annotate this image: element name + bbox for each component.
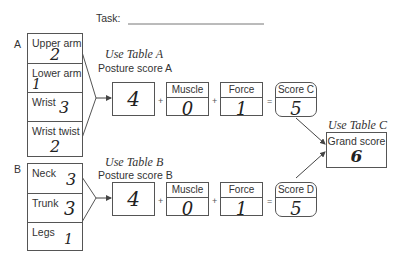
item-value: 3 — [66, 170, 76, 189]
item-legs: Legs 1 — [28, 222, 82, 252]
muscle-b-box: Muscle 0 — [166, 182, 209, 216]
item-value: 1 — [64, 231, 73, 247]
force-b-value: 1 — [221, 198, 262, 220]
funnel-b — [82, 177, 96, 222]
item-wrist-twist: Wrist twist 2 — [28, 121, 82, 158]
score-d-value: 5 — [276, 198, 316, 220]
muscle-a-box: Muscle 0 — [166, 82, 209, 116]
arrow-d-grand — [296, 152, 325, 178]
item-value: 3 — [64, 198, 75, 219]
task-input[interactable] — [128, 10, 264, 26]
plus-sign: + — [158, 96, 163, 106]
task-label: Task: — [96, 12, 121, 24]
table-b-ref: Use Table B — [105, 155, 163, 170]
item-label: Legs — [32, 226, 55, 238]
section-a-letter: A — [14, 38, 21, 50]
item-label: Wrist twist — [32, 125, 80, 137]
item-value: 3 — [59, 98, 69, 117]
muscle-b-label: Muscle — [167, 183, 208, 198]
equals-sign: = — [267, 96, 272, 106]
posture-b-box: 4 — [112, 182, 155, 216]
score-c-box: Score C 5 — [275, 82, 317, 117]
grand-score-box: Grand score 6 — [326, 132, 387, 168]
section-b-letter: B — [14, 163, 21, 175]
item-value: 1 — [32, 76, 41, 92]
funnel-a — [82, 52, 96, 138]
item-label: Trunk — [32, 197, 58, 209]
muscle-b-value: 0 — [167, 198, 208, 220]
item-value: 2 — [50, 137, 60, 156]
item-upper-arm: Upper arm 2 — [28, 34, 82, 63]
table-c-ref: Use Table C — [328, 118, 387, 133]
force-a-box: Force 1 — [220, 82, 263, 116]
muscle-a-value: 0 — [167, 98, 208, 120]
item-neck: Neck 3 — [28, 164, 82, 193]
item-label: Wrist — [32, 96, 56, 108]
section-b-items: Neck 3 Trunk 3 Legs 1 — [27, 163, 83, 251]
posture-b-value: 4 — [113, 183, 154, 215]
muscle-a-label: Muscle — [167, 83, 208, 98]
score-d-box: Score D 5 — [275, 182, 317, 217]
score-d-label: Score D — [276, 183, 316, 198]
force-a-label: Force — [221, 83, 262, 98]
plus-sign: + — [212, 196, 217, 206]
score-c-label: Score C — [276, 83, 316, 98]
table-a-ref: Use Table A — [105, 47, 163, 62]
item-trunk: Trunk 3 — [28, 193, 82, 222]
force-b-box: Force 1 — [220, 182, 263, 216]
grand-score-value: 6 — [327, 147, 386, 165]
score-c-value: 5 — [276, 98, 316, 120]
force-b-label: Force — [221, 183, 262, 198]
posture-a-box: 4 — [112, 82, 155, 116]
posture-b-label: Posture score B — [98, 169, 173, 181]
force-a-value: 1 — [221, 98, 262, 120]
equals-sign: = — [267, 196, 272, 206]
section-a-items: Upper arm 2 Lower arm 1 Wrist 3 Wrist tw… — [27, 33, 83, 157]
item-label: Neck — [32, 167, 56, 179]
item-value: 2 — [50, 45, 60, 64]
item-wrist: Wrist 3 — [28, 92, 82, 121]
posture-a-label: Posture score A — [98, 62, 172, 74]
plus-sign: + — [158, 196, 163, 206]
plus-sign: + — [212, 96, 217, 106]
posture-a-value: 4 — [113, 83, 154, 115]
arrow-c-grand — [296, 118, 325, 144]
item-lower-arm: Lower arm 1 — [28, 63, 82, 92]
